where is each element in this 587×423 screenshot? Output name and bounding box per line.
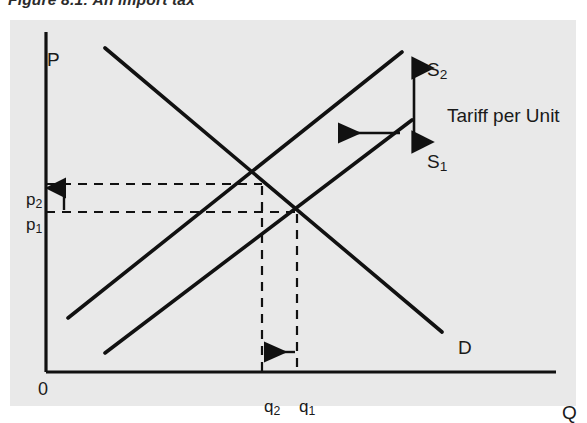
quantity-tick-q1: q1: [299, 398, 315, 417]
supply-shifted-subscript: 2: [440, 67, 448, 82]
supply-original-label: S1: [427, 152, 447, 174]
price-tick-p1: p1: [26, 216, 42, 235]
origin-label: 0: [38, 380, 48, 398]
diagram-panel: P Q 0 S2 S1 D p2 p1 q2 q1 Tariff per Uni…: [10, 20, 576, 406]
figure-caption: Figure 8.1: An import tax: [8, 0, 195, 9]
supply-curve-original: [105, 120, 412, 353]
y-axis-label: P: [47, 50, 60, 69]
supply-original-subscript: 1: [440, 159, 448, 174]
quantity-tick-q2-subscript: 2: [273, 404, 280, 418]
supply-original-letter: S: [427, 151, 440, 172]
tariff-annotation: Tariff per Unit: [447, 106, 560, 125]
price-tick-p2-subscript: 2: [35, 197, 42, 211]
quantity-tick-q2: q2: [264, 398, 280, 417]
quantity-tick-q1-subscript: 1: [308, 404, 315, 418]
price-tick-p2: p2: [26, 191, 42, 210]
price-tick-p1-subscript: 1: [35, 222, 42, 236]
x-axis-label: Q: [562, 403, 577, 422]
supply-shifted-label: S2: [427, 60, 447, 82]
supply-shifted-letter: S: [427, 59, 440, 80]
demand-curve: [105, 48, 442, 332]
demand-label: D: [458, 338, 472, 357]
supply-demand-diagram: [10, 20, 576, 406]
